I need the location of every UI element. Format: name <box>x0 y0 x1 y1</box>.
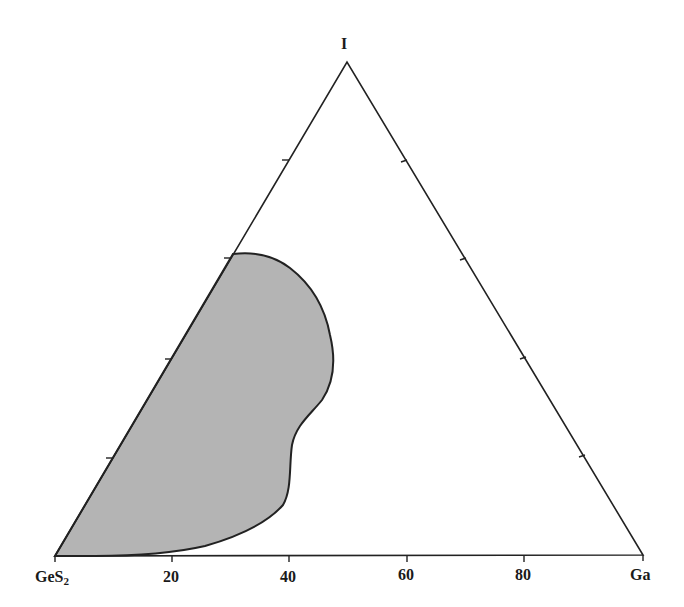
vertex-left-subscript: 2 <box>63 575 69 587</box>
vertex-label-top: I <box>341 36 347 52</box>
vertex-label-left: GeS2 <box>35 569 69 589</box>
tick-label-60: 60 <box>398 567 414 583</box>
vertex-right-text: Ga <box>630 566 650 583</box>
tick-label-20: 20 <box>163 569 179 585</box>
tick-label-40: 40 <box>280 569 296 585</box>
vertex-label-right: Ga <box>630 567 650 583</box>
ternary-diagram: I GeS2 Ga 20 40 60 80 <box>0 0 684 607</box>
glass-forming-region <box>55 253 333 556</box>
ternary-plot-svg <box>0 0 684 607</box>
vertex-top-text: I <box>341 35 347 52</box>
vertex-left-text: GeS <box>35 568 63 585</box>
tick-label-80: 80 <box>515 567 531 583</box>
